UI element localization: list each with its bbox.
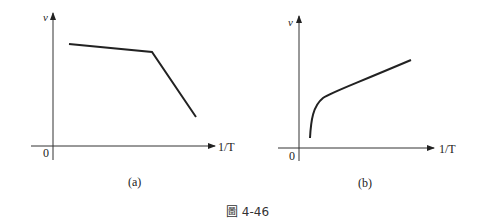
origin-label-b: 0 bbox=[289, 149, 295, 163]
y-axis-label-b: v bbox=[288, 16, 293, 28]
x-axis-label-a: 1/T bbox=[218, 140, 235, 154]
figure-caption: 圖 4-46 bbox=[226, 205, 269, 219]
y-axis-label-a: v bbox=[43, 11, 48, 23]
panel-a: v 1/T 0 (a) bbox=[31, 11, 235, 189]
curve-a bbox=[69, 44, 196, 117]
origin-label-a: 0 bbox=[43, 146, 49, 160]
figure-canvas: v 1/T 0 (a) v 1/T 0 (b) 圖 4-46 bbox=[0, 0, 480, 224]
panel-label-b: (b) bbox=[358, 176, 372, 190]
panel-label-a: (a) bbox=[128, 175, 141, 189]
panel-b: v 1/T 0 (b) bbox=[278, 16, 456, 190]
x-axis-label-b: 1/T bbox=[439, 142, 456, 156]
curve-b bbox=[310, 60, 411, 138]
